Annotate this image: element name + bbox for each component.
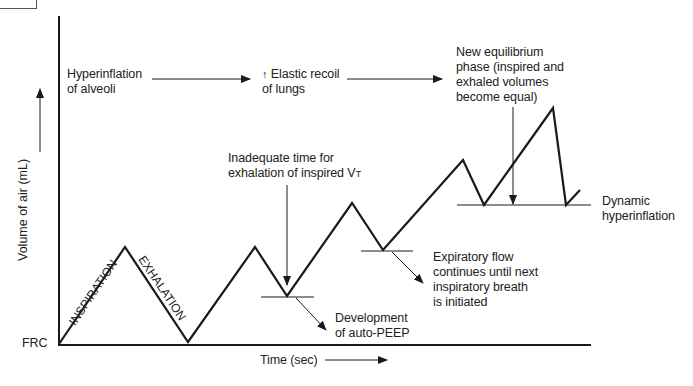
y-axis-label: Volume of air (mL) — [16, 159, 30, 261]
auto-peep-label: Development of auto-PEEP — [335, 311, 410, 341]
hyperinflation-label: Hyperinflation of alveoli — [67, 67, 142, 97]
equilibrium-label: New equilibrium phase (inspired and exha… — [456, 45, 564, 105]
elastic-recoil-label: ↑ Elastic recoil of lungs — [262, 67, 340, 97]
arrow-to-expiratory-flow — [392, 252, 423, 283]
increase-arrow-icon: ↑ — [262, 68, 267, 80]
frc-label: FRC — [22, 336, 47, 351]
x-axis-label: Time (sec) — [260, 353, 318, 368]
inadequate-time-label: Inadequate time for exhalation of inspir… — [228, 151, 361, 181]
arrow-to-auto-peep — [296, 298, 326, 330]
expiratory-flow-label: Expiratory flow continues until next ins… — [433, 250, 538, 310]
dynamic-hyperinflation-label: Dynamic hyperinflation — [602, 194, 675, 224]
